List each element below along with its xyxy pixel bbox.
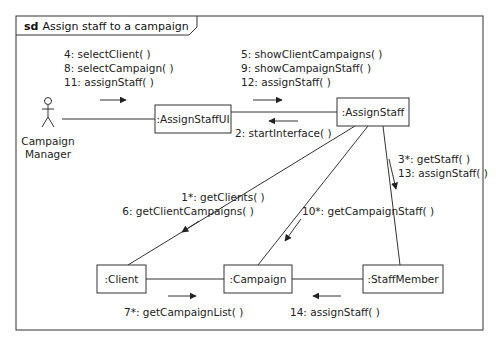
message-label: 12: assignStaff( )	[241, 76, 331, 88]
message-label: 11: assignStaff( )	[64, 76, 154, 88]
frame-title: sdAssign staff to a campaign	[24, 20, 189, 33]
message-label: 2: startInterface( )	[235, 127, 332, 139]
object-staff-member[interactable]: :StaffMember	[363, 265, 443, 293]
actor-stick-figure-icon	[42, 98, 54, 128]
object-assign-staff[interactable]: :AssignStaff	[337, 98, 409, 126]
object-label: :Client	[105, 273, 139, 285]
message-label: 9: showCampaignStaff( )	[241, 62, 371, 74]
message-label: 5: showClientCampaigns( )	[241, 48, 382, 60]
arrow-diagonal-icon	[285, 219, 301, 241]
arrow-diagonal-icon	[182, 221, 199, 232]
actor-name-line1: Campaign	[21, 135, 74, 147]
frame-keyword: sd	[24, 20, 38, 33]
object-client[interactable]: :Client	[97, 265, 146, 293]
object-campaign[interactable]: :Campaign	[224, 265, 292, 293]
object-label: :StaffMember	[367, 273, 439, 285]
message-label: 8: selectCampaign( )	[64, 62, 174, 74]
message-label: 6: getClientCampaigns( )	[122, 205, 254, 217]
actor-name-line2: Manager	[25, 148, 72, 160]
message-label: 4: selectClient( )	[64, 48, 151, 60]
object-label: :Campaign	[230, 273, 287, 285]
object-label: :AssignStaff	[342, 106, 405, 118]
message-label: 14: assignStaff( )	[290, 306, 380, 318]
message-label: 7*: getCampaignList( )	[124, 306, 243, 318]
object-label: :AssignStaffUI	[156, 113, 229, 125]
message-label: 1*: getClients( )	[181, 191, 264, 203]
frame-title-text: Assign staff to a campaign	[42, 20, 188, 33]
object-assign-staff-ui[interactable]: :AssignStaffUI	[155, 105, 231, 133]
message-label: 10*: getCampaignStaff( )	[302, 205, 434, 217]
link-control-campaign	[258, 126, 368, 265]
communication-diagram: sdAssign staff to a campaign Campaign Ma…	[0, 0, 496, 343]
message-label: 13: assignStaff( )	[398, 167, 488, 179]
link-control-staff	[383, 126, 400, 265]
message-label: 3*: getStaff( )	[398, 153, 470, 165]
